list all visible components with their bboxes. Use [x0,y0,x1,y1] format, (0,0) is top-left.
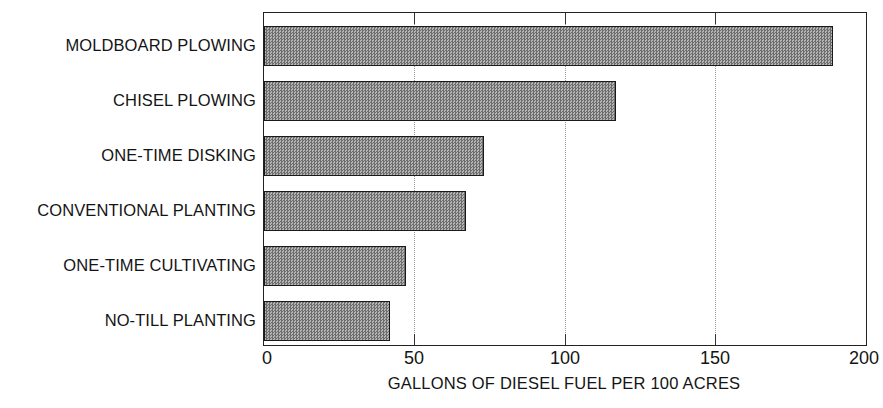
category-label-conventional-planting: CONVENTIONAL PLANTING [0,201,256,220]
bar-chisel-plowing [264,81,616,121]
bar-no-till-planting [264,301,390,341]
bar-moldboard-plowing [264,26,833,66]
x-tick-label-0: 0 [262,348,272,369]
horizontal-bar-chart: MOLDBOARD PLOWING CHISEL PLOWING ONE-TIM… [0,0,883,408]
category-label-no-till-planting: NO-TILL PLANTING [0,311,256,330]
x-tick-label-200: 200 [849,348,879,369]
bar-one-time-disking [264,136,484,176]
bar-one-time-cultivating [264,246,406,286]
x-tick-label-50: 50 [404,348,424,369]
tick-top-50 [414,13,415,24]
category-label-one-time-disking: ONE-TIME DISKING [0,146,256,165]
category-label-chisel-plowing: CHISEL PLOWING [0,91,256,110]
tick-bottom-50 [414,334,415,345]
x-axis-title: GALLONS OF DIESEL FUEL PER 100 ACRES [263,374,865,393]
category-axis-labels: MOLDBOARD PLOWING CHISEL PLOWING ONE-TIM… [0,12,256,344]
tick-bottom-150 [715,334,716,345]
x-axis-tick-labels: 0 50 100 150 200 [0,348,883,372]
tick-bottom-100 [565,334,566,345]
tick-top-150 [715,13,716,24]
plot-area [263,12,867,346]
category-label-one-time-cultivating: ONE-TIME CULTIVATING [0,256,256,275]
bar-conventional-planting [264,191,466,231]
tick-top-100 [565,13,566,24]
x-tick-label-100: 100 [550,348,580,369]
category-label-moldboard-plowing: MOLDBOARD PLOWING [0,36,256,55]
x-tick-label-150: 150 [700,348,730,369]
